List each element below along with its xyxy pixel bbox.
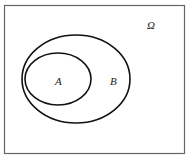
universe-frame (5, 6, 185, 154)
set-b-label: B (110, 75, 117, 87)
universe-label: Ω (147, 19, 155, 31)
venn-diagram: A B Ω (0, 0, 190, 160)
set-a-label: A (54, 75, 62, 87)
